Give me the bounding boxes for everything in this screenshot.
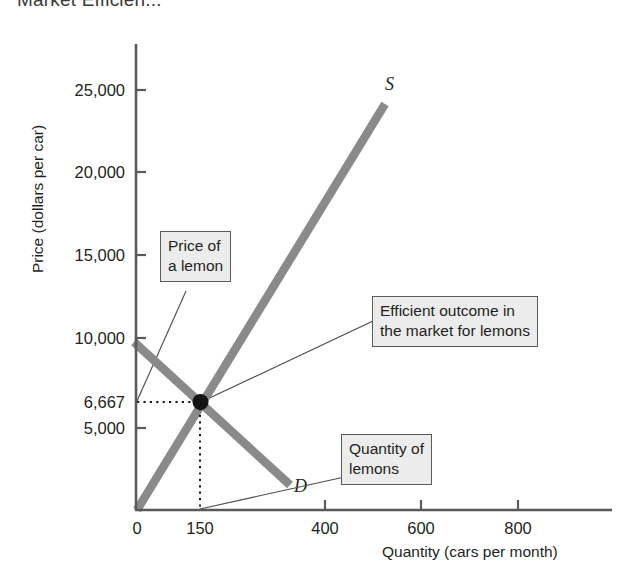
equilibrium-point-marker: [193, 394, 209, 410]
callout-efficient-outcome: Efficient outcome in the market for lemo…: [372, 296, 538, 347]
callout-price-of-lemon-line2: a lemon: [168, 256, 223, 276]
callout-price-of-lemon: Price of a lemon: [160, 231, 231, 282]
chart-figure: Market Efficien... Price (dollars per ca…: [0, 0, 625, 585]
callout-efficient-outcome-line1: Efficient outcome in: [380, 301, 530, 321]
callout-quantity-of-lemons-line1: Quantity of: [349, 439, 424, 459]
callout-quantity-of-lemons-line2: lemons: [349, 459, 424, 479]
leader-line-quantity-of-lemons: [200, 476, 349, 509]
callout-efficient-outcome-line2: the market for lemons: [380, 321, 530, 341]
demand-curve: [134, 342, 290, 485]
callout-quantity-of-lemons: Quantity of lemons: [341, 434, 432, 485]
callout-price-of-lemon-line1: Price of: [168, 236, 223, 256]
chart-plot-area: [0, 0, 625, 585]
